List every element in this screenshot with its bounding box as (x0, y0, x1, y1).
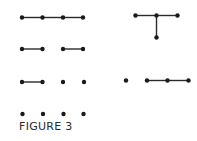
graph-vertex (40, 47, 44, 51)
graph-vertex (61, 15, 65, 19)
graph-vertex (41, 112, 45, 116)
graph-vertex (186, 78, 190, 82)
graph-row3-one-edge (20, 80, 86, 84)
graph-vertex (81, 15, 85, 19)
graph-vertex (61, 112, 65, 116)
graph-vertex (61, 47, 65, 51)
graph-vertex (40, 15, 44, 19)
graph-vertex (124, 78, 128, 82)
graph-right-star (133, 13, 179, 39)
graph-vertex (175, 13, 179, 17)
graph-row4-empty (20, 112, 85, 116)
graph-right-path3-plus-isolated (124, 78, 191, 82)
graph-vertex (20, 15, 24, 19)
graph-vertex (20, 47, 24, 51)
graph-vertex (82, 80, 86, 84)
graph-vertex (154, 35, 158, 39)
graph-vertex (40, 80, 44, 84)
graph-vertex (133, 13, 137, 17)
graph-vertex (81, 47, 85, 51)
graph-row2-two-edges (20, 47, 85, 51)
graph-vertex (81, 112, 85, 116)
graph-vertex (61, 80, 65, 84)
graph-vertex (20, 80, 24, 84)
graph-vertex (154, 13, 158, 17)
graph-row1-path4 (20, 15, 85, 19)
graph-vertex (165, 78, 169, 82)
figure-caption: FIGURE 3 (19, 120, 73, 134)
graph-vertex (20, 112, 24, 116)
graph-vertex (145, 78, 149, 82)
